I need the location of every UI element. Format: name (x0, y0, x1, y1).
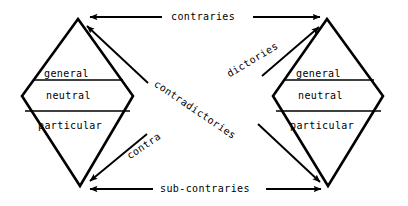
diagram-canvas (0, 0, 408, 206)
contra-dictories-connector (90, 27, 319, 181)
left-row-general: general (44, 69, 89, 79)
left-row-particular: particular (38, 121, 102, 131)
left-row-neutral: neutral (46, 91, 91, 101)
contraries-label: contraries (171, 12, 235, 22)
sub-contraries-label: sub-contraries (160, 184, 250, 194)
right-row-particular: particular (290, 121, 354, 131)
right-row-general: general (296, 69, 341, 79)
right-row-neutral: neutral (298, 91, 343, 101)
opposition-diagram: general neutral particular general neutr… (0, 0, 408, 206)
left-diamond-outline (22, 19, 133, 186)
contradictories-connector (87, 26, 320, 182)
right-diamond-outline (273, 19, 383, 186)
